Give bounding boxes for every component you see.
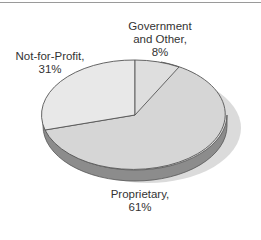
label-gov-line2: and Other, (120, 33, 200, 46)
label-gov-line1: Government (120, 20, 200, 33)
label-nfp-pct: 31% (8, 63, 92, 76)
label-not-for-profit: Not-for-Profit, 31% (8, 50, 92, 76)
label-prop-line1: Proprietary, (100, 188, 180, 201)
label-government-and-other: Government and Other, 8% (120, 20, 200, 59)
label-gov-pct: 8% (120, 46, 200, 59)
label-prop-pct: 61% (100, 201, 180, 214)
label-proprietary: Proprietary, 61% (100, 188, 180, 214)
label-nfp-line1: Not-for-Profit, (8, 50, 92, 63)
